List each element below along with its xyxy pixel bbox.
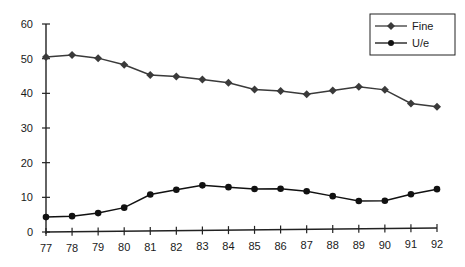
x-tick-label: 83 bbox=[196, 240, 208, 252]
y-tick-label: 10 bbox=[21, 191, 33, 203]
data-point bbox=[329, 193, 336, 200]
series-lines bbox=[42, 51, 441, 220]
data-point bbox=[146, 71, 154, 79]
x-tick-label: 91 bbox=[405, 238, 417, 250]
y-tick-label: 50 bbox=[21, 53, 33, 65]
y-tick-label: 60 bbox=[21, 18, 33, 30]
y-tick-label: 20 bbox=[21, 157, 33, 169]
x-tick-label: 89 bbox=[353, 239, 365, 251]
data-point bbox=[303, 90, 311, 98]
x-tick-label: 85 bbox=[248, 240, 260, 252]
x-tick-label: 86 bbox=[274, 240, 286, 252]
data-point bbox=[198, 76, 206, 84]
x-tick-label: 88 bbox=[327, 239, 339, 251]
series-fine bbox=[42, 51, 441, 111]
legend: Fine U/e bbox=[370, 14, 455, 55]
data-point bbox=[173, 186, 180, 193]
data-point bbox=[43, 214, 50, 221]
data-point bbox=[408, 191, 415, 198]
data-point bbox=[68, 51, 76, 59]
x-tick-label: 78 bbox=[66, 242, 78, 254]
x-tick-label: 80 bbox=[118, 241, 130, 253]
data-point bbox=[251, 186, 258, 193]
y-tick-label: 30 bbox=[21, 122, 33, 134]
y-tick-label: 40 bbox=[21, 87, 33, 99]
data-point bbox=[94, 54, 102, 62]
legend-label-fine: Fine bbox=[412, 20, 433, 32]
data-point bbox=[69, 213, 76, 220]
data-point bbox=[147, 191, 154, 198]
data-point bbox=[225, 184, 232, 191]
data-point bbox=[199, 182, 206, 189]
data-point bbox=[329, 86, 337, 94]
data-point bbox=[434, 186, 441, 193]
data-point bbox=[355, 83, 363, 91]
line-chart: 0102030405060777879808182838485868788899… bbox=[0, 0, 465, 267]
data-point bbox=[172, 72, 180, 80]
data-point bbox=[356, 198, 363, 205]
y-tick-label: 0 bbox=[27, 226, 33, 238]
data-point bbox=[407, 99, 415, 107]
x-tick-label: 84 bbox=[222, 240, 234, 252]
x-tick-label: 81 bbox=[144, 241, 156, 253]
data-point bbox=[277, 185, 284, 192]
circle-marker-icon bbox=[388, 40, 394, 46]
x-tick-label: 90 bbox=[379, 239, 391, 251]
data-point bbox=[251, 85, 259, 93]
x-tick-label: 82 bbox=[170, 241, 182, 253]
data-point bbox=[224, 79, 232, 87]
data-point bbox=[42, 53, 50, 61]
x-axis bbox=[46, 228, 437, 232]
data-point bbox=[121, 204, 128, 211]
data-point bbox=[381, 86, 389, 94]
x-tick-label: 77 bbox=[40, 242, 52, 254]
data-point bbox=[120, 61, 128, 69]
data-point bbox=[433, 103, 441, 111]
data-point bbox=[277, 87, 285, 95]
x-tick-label: 87 bbox=[301, 239, 313, 251]
data-point bbox=[303, 188, 310, 195]
x-tick-label: 92 bbox=[431, 238, 443, 250]
series-ue bbox=[43, 182, 441, 220]
legend-label-ue: U/e bbox=[412, 37, 429, 49]
x-tick-label: 79 bbox=[92, 241, 104, 253]
data-point bbox=[95, 210, 102, 217]
data-point bbox=[382, 198, 389, 205]
